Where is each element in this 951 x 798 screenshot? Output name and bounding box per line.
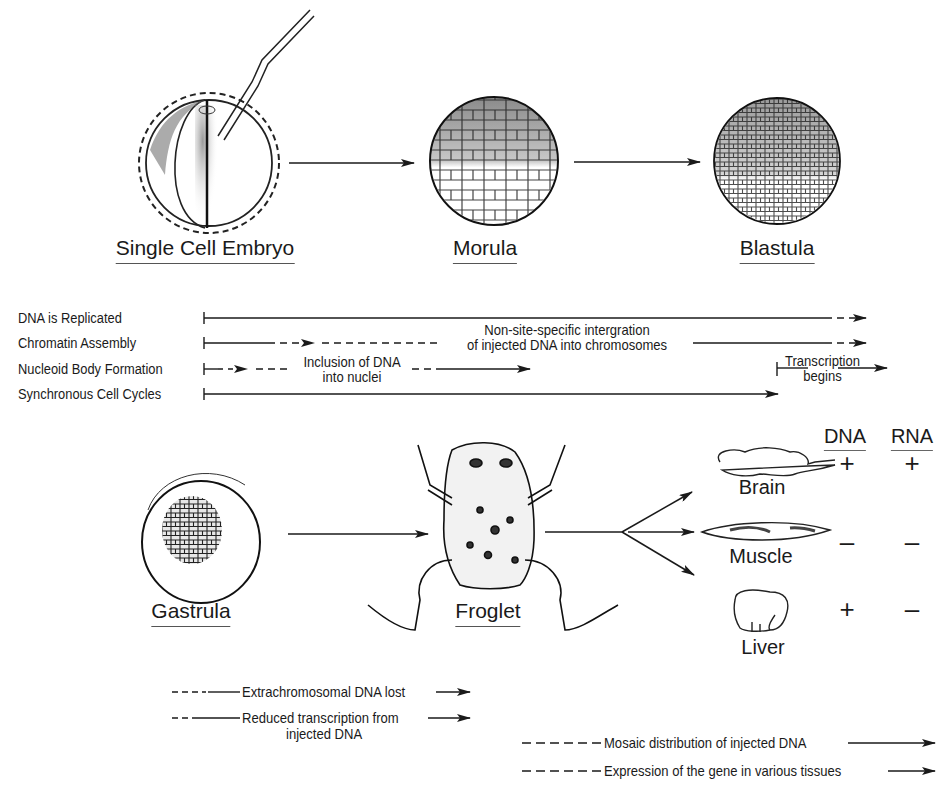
- legend-reduced-transcription: Reduced transcription from: [242, 710, 399, 726]
- header-text: DNA: [824, 425, 866, 447]
- underline: [740, 263, 815, 264]
- stage-label-single-cell-embryo: Single Cell Embryo: [116, 236, 295, 264]
- gastrula-illustration: [142, 473, 260, 603]
- liver-rna-sign: –: [905, 594, 919, 625]
- brain-dna-sign: +: [839, 448, 854, 479]
- stage-label-blastula: Blastula: [740, 236, 815, 264]
- muscle-rna-sign: –: [905, 527, 919, 558]
- annotation-transcription-begins: Transcription begins: [780, 354, 866, 384]
- annotation-text: into nuclei: [289, 370, 415, 385]
- timeline-label-chromatin-assembly: Chromatin Assembly: [18, 335, 136, 351]
- blastula-illustration: [714, 98, 840, 224]
- header-text: RNA: [891, 425, 933, 447]
- timeline-label-dna-replicated: DNA is Replicated: [18, 310, 122, 326]
- legend-mosaic-distribution: Mosaic distribution of injected DNA: [604, 735, 806, 751]
- annotation-text: Inclusion of DNA: [289, 355, 415, 370]
- underline: [453, 263, 517, 264]
- brain-rna-sign: +: [904, 448, 919, 479]
- muscle-illustration: [702, 523, 830, 540]
- organ-label-liver: Liver: [741, 636, 784, 659]
- brain-illustration: [718, 448, 835, 476]
- legend-gene-expression: Expression of the gene in various tissue…: [604, 763, 841, 779]
- annotation-text: begins: [780, 369, 866, 384]
- stage-label-text: Morula: [453, 236, 517, 259]
- timeline-label-synchronous-cell-cycles: Synchronous Cell Cycles: [18, 386, 161, 402]
- annotation-text: Transcription: [780, 354, 866, 369]
- annotation-text: Non-site-specific intergration: [446, 323, 689, 338]
- underline: [116, 263, 295, 264]
- single-cell-embryo-illustration: [139, 10, 314, 233]
- stage-label-morula: Morula: [453, 236, 517, 264]
- legend-extrachromosomal-dna-lost: Extrachromosomal DNA lost: [242, 684, 405, 700]
- morula-illustration: [430, 97, 560, 227]
- stage-label-text: Single Cell Embryo: [116, 236, 295, 259]
- stage-label-gastrula: Gastrula: [151, 599, 230, 627]
- muscle-dna-sign: –: [840, 527, 854, 558]
- underline: [455, 626, 520, 627]
- stage-label-froglet: Froglet: [455, 599, 520, 627]
- stage-label-text: Froglet: [455, 599, 520, 622]
- organ-label-brain: Brain: [739, 476, 786, 499]
- timeline-label-nucleoid-body-formation: Nucleoid Body Formation: [18, 361, 163, 377]
- liver-dna-sign: +: [839, 594, 854, 625]
- stage-label-text: Gastrula: [151, 599, 230, 622]
- annotation-inclusion: Inclusion of DNA into nuclei: [289, 355, 415, 385]
- stage-label-text: Blastula: [740, 236, 815, 259]
- liver-illustration: [734, 590, 788, 632]
- legend-reduced-transcription-line2: injected DNA: [286, 726, 362, 742]
- organ-label-muscle: Muscle: [729, 545, 792, 568]
- underline: [151, 626, 230, 627]
- annotation-text: of injected DNA into chromosomes: [446, 338, 689, 353]
- annotation-integration: Non-site-specific intergration of inject…: [446, 323, 689, 353]
